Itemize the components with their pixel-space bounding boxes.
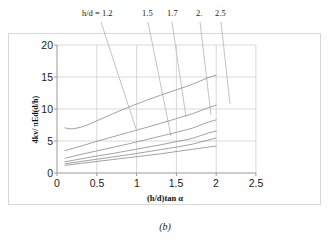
plot-area [57,45,256,173]
curve-lower-6 [65,146,216,165]
xtick-label-1-5: 1.5 [161,177,191,189]
y-axis-title: 4kv/ πEd(d/h) [31,65,40,175]
x-axis-title: (h/d)tan α [0,193,330,203]
curve-h-d-2 [65,131,216,162]
curve-h-d-1-2 [65,75,216,129]
xtick-label-2-5: 2.5 [241,177,271,189]
ytick-label-20: 20 [29,40,53,50]
figure-caption: (b) [0,221,330,232]
y-axis-title-host: 4kv/ πEd(d/h) [18,60,32,170]
xtick-label-2: 2 [201,177,231,189]
x-axis-tick-labels: 0 0.5 1 1.5 2 2.5 [0,177,330,191]
xtick-label-0: 0 [42,177,72,189]
data-curves [57,45,256,173]
xtick-label-0-5: 0.5 [82,177,112,189]
curve-h-d-2-5 [65,138,216,164]
xtick-label-1: 1 [122,177,152,189]
